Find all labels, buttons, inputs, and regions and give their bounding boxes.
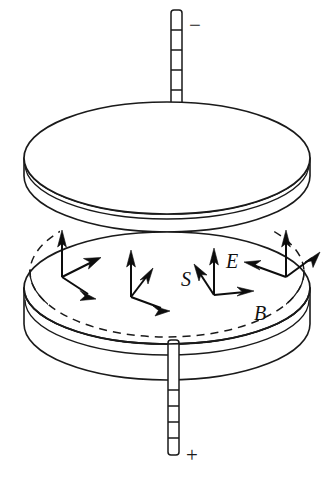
magnetic-field-label: B bbox=[254, 302, 266, 324]
capacitor-diagram-canvas: − bbox=[0, 0, 334, 484]
negative-sign-label: − bbox=[189, 13, 201, 37]
bottom-terminal-rod bbox=[168, 340, 179, 455]
poynting-vector-label: S bbox=[181, 268, 191, 290]
top-plate bbox=[24, 102, 310, 232]
top-plate-face bbox=[24, 102, 310, 214]
bottom-plate bbox=[24, 232, 310, 380]
electric-field-label: E bbox=[225, 250, 238, 272]
positive-sign-label: + bbox=[186, 443, 198, 467]
capacitor-figure: − bbox=[0, 0, 334, 484]
